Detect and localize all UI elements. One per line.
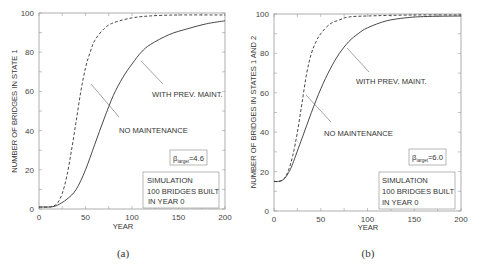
leader-no-maint-a [91,84,119,117]
y-tick-label: 20 [25,166,34,175]
x-tick-label: 150 [172,213,186,222]
y-tick-label: 0 [265,207,270,216]
chart-panel-b: 020406080100 050100150200 WITH PREV. MAI… [249,10,468,260]
x-tick-label: 200 [454,215,468,224]
y-tick-label: 0 [30,205,35,214]
x-tick-label: 50 [81,213,90,222]
label-prev-maint-b: WITH PREV. MAINT. [356,77,427,86]
y-tick-label: 40 [260,128,269,137]
y-tick-label: 40 [25,127,34,136]
y-tick-label: 60 [25,87,34,96]
sim-line3-a: IN YEAR 0 [148,197,185,206]
y-tick-label: 100 [256,10,270,19]
label-no-maint-a: NO MAINTENANCE [119,126,188,135]
y-tick-label: 80 [25,48,34,57]
y-tick-label: 60 [260,89,269,98]
x-tick-label: 150 [408,215,422,224]
label-no-maint-b: NO MAINTENANCE [324,129,393,138]
figure: 020406080100 050100150200 WITH PREV. MAI… [0,0,478,274]
x-tick-label: 0 [272,215,277,224]
x-axis-label-a: YEAR [113,222,134,231]
sim-line2-a: 100 BRIDGES BUILT [147,187,219,196]
y-axis-label-a: NUMBER OF BRIDGES IN STATE 1 [10,49,19,172]
x-tick-label: 200 [218,213,232,222]
chart-panel-a: 020406080100 050100150200 WITH PREV. MAI… [10,9,232,260]
leader-prev-maint-b [347,48,369,72]
x-tick-label: 50 [316,215,325,224]
caption-b: (b) [362,247,375,260]
sim-line2-b: 100 BRIDGES BUILT [382,187,454,196]
x-tick-label: 0 [37,213,42,222]
y-tick-label: 20 [260,168,269,177]
y-tick-label: 100 [21,9,35,18]
y-tick-labels-a: 020406080100 [21,9,35,214]
sim-line1-b: SIMULATION [382,176,428,185]
leader-prev-maint-a [141,61,163,84]
x-tick-label: 100 [125,213,139,222]
label-prev-maint-a: WITH PREV. MAINT. [152,90,223,99]
sim-line1-a: SIMULATION [147,176,193,185]
sim-line3-b: IN YEAR 0 [382,198,419,207]
x-axis-label-b: YEAR [358,223,379,232]
y-axis-label-b: NUMBER OF BRIDGES IN STATES 1 AND 2 [249,36,258,188]
x-tick-labels-a: 050100150200 [37,213,232,222]
caption-a: (a) [117,247,130,260]
y-tick-label: 80 [260,49,269,58]
